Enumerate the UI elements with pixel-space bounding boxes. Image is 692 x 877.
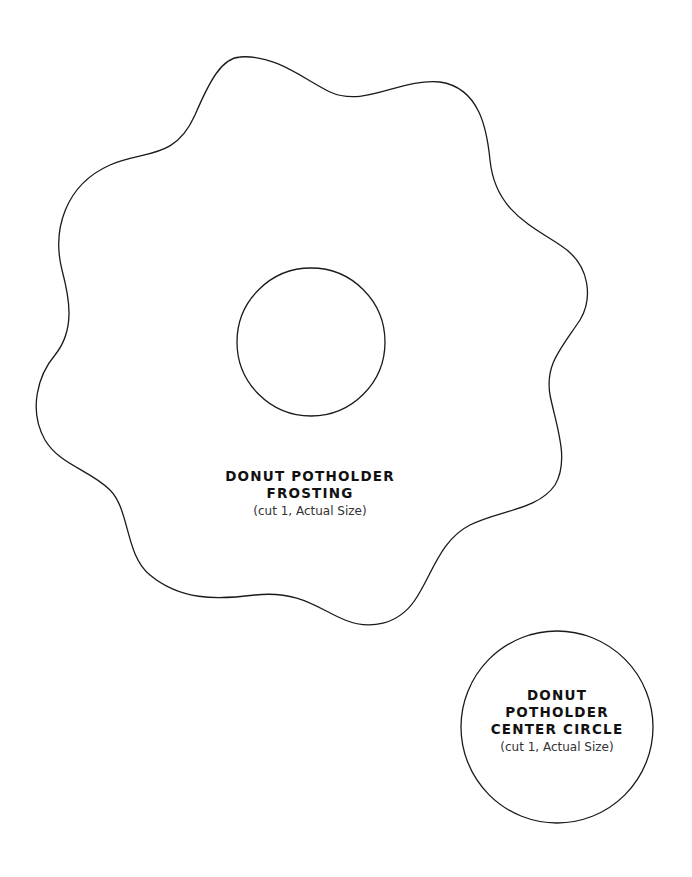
frosting-label: DONUT POTHOLDER FROSTING (cut 1, Actual … — [200, 468, 420, 520]
frosting-title-line2: FROSTING — [200, 485, 420, 502]
frosting-instruction: (cut 1, Actual Size) — [200, 503, 420, 520]
center-circle-title-line1: DONUT — [467, 687, 647, 704]
center-circle-title-line3: CENTER CIRCLE — [467, 721, 647, 738]
center-circle-label: DONUT POTHOLDER CENTER CIRCLE (cut 1, Ac… — [467, 687, 647, 756]
center-circle-title-line2: POTHOLDER — [467, 704, 647, 721]
center-circle-instruction: (cut 1, Actual Size) — [467, 739, 647, 756]
frosting-outline — [36, 57, 587, 625]
frosting-center-hole — [237, 268, 385, 416]
frosting-title-line1: DONUT POTHOLDER — [200, 468, 420, 485]
